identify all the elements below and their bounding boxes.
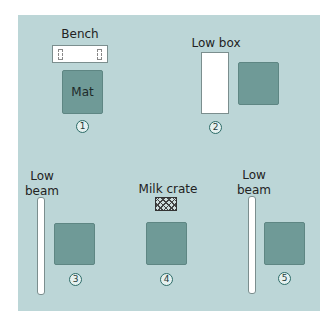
mat-station-1: Mat	[62, 70, 103, 114]
bench-leg-right	[97, 49, 102, 60]
mat-label: Mat	[63, 85, 102, 99]
low-beam-5	[248, 196, 256, 294]
bench	[52, 45, 108, 63]
mat-station-2	[238, 62, 279, 105]
station-number-3: 3	[69, 273, 82, 286]
milk-crate	[155, 197, 177, 211]
mat-station-4	[146, 222, 187, 265]
low-beam-label-5: Low beam	[236, 168, 272, 198]
bench-label: Bench	[52, 27, 108, 41]
mat-station-5	[264, 222, 305, 265]
low-beam-label-3: Low beam	[24, 169, 60, 199]
low-beam-3	[37, 197, 45, 295]
station-number-2: 2	[209, 121, 222, 134]
station-number-5: 5	[278, 272, 291, 285]
mat-station-3	[54, 223, 95, 265]
low-box	[201, 52, 229, 114]
station-number-1: 1	[76, 120, 89, 133]
bench-leg-left	[58, 49, 63, 60]
milk-crate-label: Milk crate	[136, 182, 200, 196]
station-number-4: 4	[160, 273, 173, 286]
low-box-label: Low box	[188, 36, 244, 50]
